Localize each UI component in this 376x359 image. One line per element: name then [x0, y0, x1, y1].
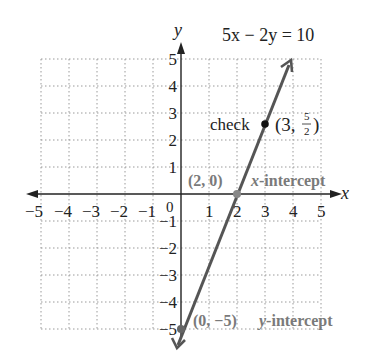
check-point — [261, 120, 269, 128]
check-coord-denominator: 2 — [304, 125, 310, 137]
check-point-label: (3, 5 2 ) — [275, 110, 319, 137]
y-tick: −4 — [159, 293, 178, 312]
y-tick: −1 — [159, 212, 177, 231]
y-tick: −2 — [159, 239, 177, 258]
equation-title: 5x − 2y = 10 — [222, 25, 314, 45]
x-tick: 1 — [205, 202, 214, 221]
plotted-line — [172, 60, 292, 348]
x-tick: 3 — [261, 202, 270, 221]
y-tick: −3 — [159, 266, 177, 285]
y-axis-label: y — [172, 20, 182, 40]
x-axis-arrow-left-icon — [26, 190, 38, 198]
y-intercept-point — [177, 325, 185, 333]
y-intercept-coords: (0, −5) — [193, 312, 237, 330]
graph: −5 −4 −3 −2 −1 0 1 2 3 4 5 5 4 3 2 1 −1 … — [0, 0, 376, 359]
y-axis-arrow-up-icon — [177, 42, 185, 54]
check-coord-numerator: 5 — [304, 110, 310, 122]
y-tick: 3 — [169, 104, 178, 123]
y-tick: −5 — [159, 320, 177, 339]
x-tick: −1 — [138, 202, 156, 221]
x-intercept-point — [233, 190, 241, 198]
x-tick: −5 — [25, 202, 43, 221]
check-label: check — [210, 115, 250, 134]
x-axis — [26, 190, 342, 198]
x-tick: −2 — [110, 202, 128, 221]
x-intercept-label: x-intercept — [250, 172, 326, 190]
x-axis-label: x — [340, 183, 349, 203]
y-tick: 4 — [169, 77, 178, 96]
x-tick: −4 — [54, 202, 73, 221]
y-tick: 2 — [169, 131, 178, 150]
x-tick: 4 — [289, 202, 298, 221]
x-tick: 2 — [233, 202, 242, 221]
y-tick: 1 — [169, 158, 178, 177]
x-tick: 5 — [317, 202, 326, 221]
x-intercept-coords: (2, 0) — [188, 172, 223, 190]
check-coord-open: (3, — [275, 114, 296, 136]
y-intercept-label: y-intercept — [257, 312, 333, 330]
check-coord-close: ) — [313, 114, 319, 136]
x-tick: −3 — [82, 202, 100, 221]
y-tick: 5 — [169, 50, 178, 69]
